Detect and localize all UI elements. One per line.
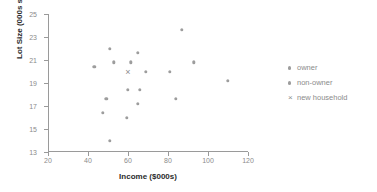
x-tick-mark <box>248 152 249 156</box>
y-tick-label: 13 <box>21 149 37 156</box>
y-tick-mark <box>44 14 48 15</box>
chart-legend: ownernon-owner×new household <box>288 60 376 105</box>
y-tick-label: 21 <box>21 57 37 64</box>
x-tick-label: 60 <box>124 157 132 164</box>
data-point-new-household: × <box>124 67 133 76</box>
y-tick-mark <box>44 152 48 153</box>
legend-marker-cross: × <box>288 93 297 102</box>
x-tick-mark <box>88 152 89 156</box>
x-axis-title: Income ($000s) <box>48 172 248 181</box>
y-tick-label: 15 <box>21 126 37 133</box>
y-tick-mark <box>44 60 48 61</box>
legend-item: non-owner <box>288 75 376 90</box>
x-tick-label: 100 <box>202 157 214 164</box>
y-tick-label: 25 <box>21 11 37 18</box>
legend-dot-icon <box>288 66 291 69</box>
y-tick-mark <box>44 106 48 107</box>
y-tick-label: 23 <box>21 34 37 41</box>
legend-item: ×new household <box>288 90 376 105</box>
legend-item-label: non-owner <box>297 78 332 87</box>
x-tick-mark <box>208 152 209 156</box>
legend-dot-icon <box>288 81 291 84</box>
legend-item: owner <box>288 60 376 75</box>
scatter-chart: Income ($000s) Lot Size (000s sqft) 2040… <box>0 0 377 192</box>
y-tick-mark <box>44 37 48 38</box>
x-tick-mark <box>168 152 169 156</box>
legend-cross-icon: × <box>288 94 293 102</box>
x-tick-mark <box>128 152 129 156</box>
y-tick-label: 17 <box>21 103 37 110</box>
y-tick-label: 19 <box>21 80 37 87</box>
x-tick-mark <box>48 152 49 156</box>
x-tick-label: 80 <box>164 157 172 164</box>
x-tick-label: 40 <box>84 157 92 164</box>
legend-marker-dot <box>288 78 297 87</box>
y-tick-mark <box>44 129 48 130</box>
x-tick-label: 20 <box>44 157 52 164</box>
legend-item-label: owner <box>297 63 317 72</box>
x-tick-label: 120 <box>242 157 254 164</box>
y-tick-mark <box>44 83 48 84</box>
plot-area <box>48 14 248 152</box>
legend-item-label: new household <box>297 93 347 102</box>
legend-marker-dot <box>288 63 297 72</box>
